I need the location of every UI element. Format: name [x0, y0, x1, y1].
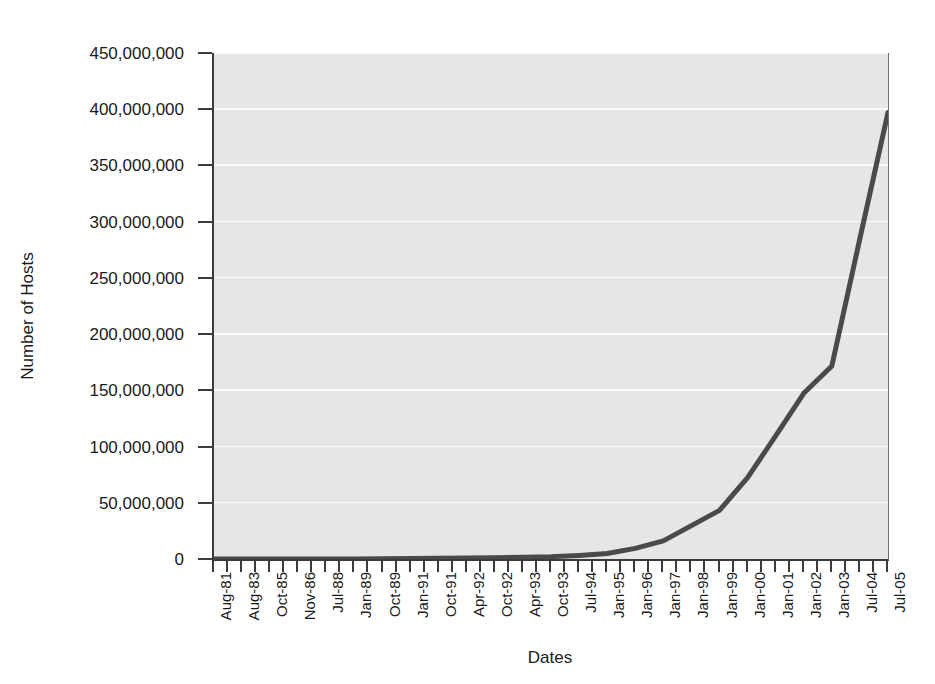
y-axis-tick-label: 0 [175, 551, 184, 568]
x-axis-tick-mark [591, 561, 593, 572]
x-axis-tick-label: Jul-04 [864, 572, 879, 613]
y-axis-tick-mark [198, 108, 212, 110]
x-axis-tick-mark [437, 561, 439, 572]
x-axis-tick-mark [268, 561, 270, 572]
x-axis-tick-mark [226, 561, 228, 572]
x-axis-tick-mark [366, 561, 368, 572]
x-axis-tick-label: Jan-95 [611, 572, 626, 618]
x-axis-tick-label: Jul-05 [892, 572, 907, 613]
y-axis-tick-mark [198, 558, 212, 560]
x-axis-tick-mark [381, 561, 383, 572]
x-axis-tick-label: Jan-97 [667, 572, 682, 618]
x-axis-tick-mark [507, 561, 509, 572]
y-axis-tick-label: 350,000,000 [89, 157, 184, 174]
x-axis-tick-label: Apr-93 [527, 572, 542, 617]
y-axis-tick-label: 100,000,000 [89, 438, 184, 455]
x-axis-tick-mark [521, 561, 523, 572]
x-axis-tick-mark [282, 561, 284, 572]
x-axis-tick-mark [254, 561, 256, 572]
x-axis-tick-mark [718, 561, 720, 572]
x-axis-tick-label: Jan-91 [415, 572, 430, 618]
y-axis-tick-mark [198, 502, 212, 504]
x-axis-tick-label: Oct-92 [499, 572, 514, 617]
x-axis-tick-label: Jan-98 [695, 572, 710, 618]
x-axis-tick-mark [830, 561, 832, 572]
x-axis-tick-label: Oct-89 [387, 572, 402, 617]
x-axis-tick-label: Jan-02 [808, 572, 823, 618]
x-axis-tick-mark [844, 561, 846, 572]
x-axis-tick-mark [324, 561, 326, 572]
x-axis-tick-mark [816, 561, 818, 572]
x-axis-tick-mark [479, 561, 481, 572]
x-axis-tick-mark [732, 561, 734, 572]
x-axis-tick-mark [703, 561, 705, 572]
y-axis-tick-label: 150,000,000 [89, 382, 184, 399]
x-axis-tick-mark [577, 561, 579, 572]
plot-area [212, 53, 889, 561]
x-axis-tick-mark [296, 561, 298, 572]
x-axis-tick-label: Oct-93 [555, 572, 570, 617]
x-axis-tick-labels: Aug-81Aug-83Oct-85Nov-86Jul-88Jan-89Oct-… [212, 572, 888, 642]
x-axis-tick-mark [647, 561, 649, 572]
x-axis-tick-mark [872, 561, 874, 572]
x-axis-tick-mark [886, 561, 888, 572]
y-axis-tick-label: 400,000,000 [89, 101, 184, 118]
x-axis-tick-mark [240, 561, 242, 572]
x-axis-tick-mark [760, 561, 762, 572]
y-axis-tick-mark [198, 389, 212, 391]
y-axis-tick-mark [198, 446, 212, 448]
x-axis-tick-mark [774, 561, 776, 572]
x-axis-tick-label: Aug-83 [246, 572, 261, 620]
x-axis-title: Dates [212, 648, 888, 668]
x-axis-tick-label: Jan-96 [639, 572, 654, 618]
series-line [214, 53, 888, 559]
y-axis-tick-label: 300,000,000 [89, 213, 184, 230]
y-axis-tick-label: 200,000,000 [89, 326, 184, 343]
x-axis-tick-label: Jan-03 [836, 572, 851, 618]
x-axis-tick-label: Oct-91 [443, 572, 458, 617]
x-axis-tick-mark [352, 561, 354, 572]
x-axis-tick-mark [310, 561, 312, 572]
x-axis-tick-mark [633, 561, 635, 572]
x-axis-tick-label: Oct-85 [274, 572, 289, 617]
x-axis-tick-mark [338, 561, 340, 572]
x-axis-tick-label: Jan-99 [724, 572, 739, 618]
y-axis-tick-labels: 450,000,000400,000,000350,000,000300,000… [0, 0, 206, 684]
x-axis-tick-mark [409, 561, 411, 572]
hosts-line-chart: Number of Hosts 450,000,000400,000,00035… [0, 0, 935, 684]
y-axis-tick-mark [198, 333, 212, 335]
y-axis-tick-mark [198, 277, 212, 279]
x-axis-tick-label: Jan-01 [780, 572, 795, 618]
x-axis-tick-mark [563, 561, 565, 572]
x-axis-tick-label: Apr-92 [471, 572, 486, 617]
x-axis-tick-mark [493, 561, 495, 572]
x-axis-tick-mark [689, 561, 691, 572]
x-axis-tick-label: Jul-88 [330, 572, 345, 613]
x-axis-tick-mark [395, 561, 397, 572]
x-axis-tick-mark [675, 561, 677, 572]
x-axis-tick-mark [549, 561, 551, 572]
y-axis-tick-label: 250,000,000 [89, 269, 184, 286]
x-axis-tick-label: Aug-81 [218, 572, 233, 620]
x-axis-tick-mark [605, 561, 607, 572]
x-axis-tick-mark [535, 561, 537, 572]
x-axis-tick-mark [858, 561, 860, 572]
y-axis-tick-label: 450,000,000 [89, 45, 184, 62]
x-axis-tick-mark [451, 561, 453, 572]
x-axis-tick-label: Jan-89 [358, 572, 373, 618]
x-axis-tick-mark [746, 561, 748, 572]
x-axis-tick-mark [423, 561, 425, 572]
x-axis-tick-mark [661, 561, 663, 572]
x-axis-tick-mark [802, 561, 804, 572]
y-axis-tick-mark [198, 221, 212, 223]
x-axis-tick-mark [788, 561, 790, 572]
x-axis-tick-label: Jul-94 [583, 572, 598, 613]
y-axis-tick-mark [198, 52, 212, 54]
x-axis-tick-label: Jan-00 [752, 572, 767, 618]
x-axis-tick-mark [619, 561, 621, 572]
x-axis-tick-label: Nov-86 [302, 572, 317, 620]
x-axis-tick-mark [212, 561, 214, 572]
y-axis-tick-mark [198, 164, 212, 166]
x-axis-tick-mark [465, 561, 467, 572]
y-axis-tick-label: 50,000,000 [99, 494, 184, 511]
